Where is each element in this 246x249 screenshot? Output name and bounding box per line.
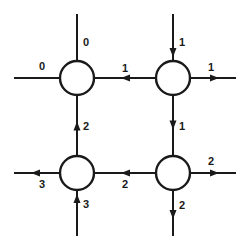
edge-label: 2: [179, 199, 185, 211]
arrow-icon: [74, 122, 81, 131]
arrow-icon: [170, 48, 177, 57]
node-bottom-left: [60, 156, 94, 190]
arrow-icon: [210, 75, 219, 82]
arrow-icon: [74, 194, 81, 203]
edge-label: 2: [208, 155, 214, 167]
edge-label: 0: [83, 36, 89, 48]
edge-label: 2: [83, 120, 89, 132]
node-top-right: [156, 61, 190, 95]
arrow-icon: [31, 170, 40, 177]
edge-label: 1: [208, 61, 214, 73]
arrow-icon: [121, 75, 130, 82]
arrow-icon: [121, 170, 130, 177]
edge-label: 3: [39, 178, 45, 190]
edge-label: 2: [122, 178, 128, 190]
edge-label: 1: [179, 36, 185, 48]
node-bottom-right: [156, 156, 190, 190]
arrow-icon: [210, 170, 219, 177]
edge-label: 0: [39, 60, 45, 72]
edge-label: 1: [122, 62, 128, 74]
arrow-icon: [170, 210, 177, 219]
edge-label: 1: [179, 120, 185, 132]
arrow-icon: [170, 121, 177, 130]
edge-label: 3: [83, 198, 89, 210]
flow-network-diagram: 001111223322: [0, 0, 246, 249]
node-top-left: [60, 61, 94, 95]
